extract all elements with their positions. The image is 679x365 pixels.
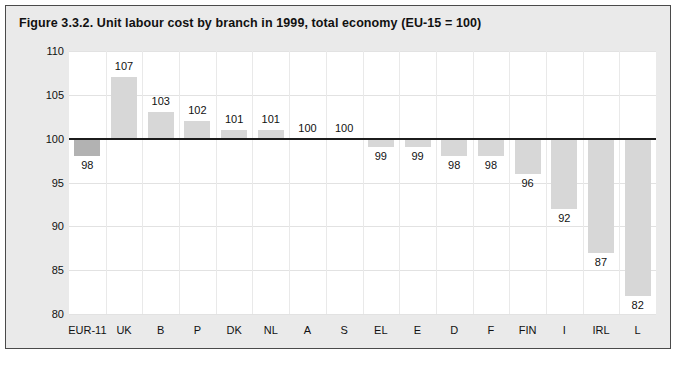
- x-tick-label-uk: UK: [116, 325, 131, 336]
- bar-value-label: 98: [81, 160, 93, 171]
- bar-value-label: 99: [375, 151, 387, 162]
- bar-value-label: 102: [188, 105, 206, 116]
- bar-value-label: 82: [632, 300, 644, 311]
- x-tick-label-el: EL: [374, 325, 387, 336]
- bar-value-label: 92: [558, 213, 570, 224]
- bar-column: 101: [216, 51, 253, 314]
- bar-value-label: 103: [152, 96, 170, 107]
- bar: [551, 139, 577, 209]
- figure-panel: Figure 3.3.2. Unit labour cost by branch…: [5, 5, 671, 349]
- y-tick-label: 95: [20, 177, 64, 188]
- x-tick-label-b: B: [157, 325, 164, 336]
- bar: [74, 139, 100, 157]
- bar-column: 98: [69, 51, 106, 314]
- gridline-y-80: [69, 314, 656, 315]
- bar: [478, 139, 504, 157]
- bar: [588, 139, 614, 253]
- y-tick-label: 90: [20, 221, 64, 232]
- bar: [368, 139, 394, 148]
- y-tick-label: 110: [20, 46, 64, 57]
- x-tick-label-a: A: [304, 325, 311, 336]
- x-tick-label-i: I: [563, 325, 566, 336]
- bar-value-label: 101: [262, 114, 280, 125]
- page-title: Figure 3.3.2. Unit labour cost by branch…: [19, 16, 481, 30]
- bar-column: 82: [619, 51, 656, 314]
- x-tick-label-nl: NL: [264, 325, 278, 336]
- bar-value-label: 96: [521, 178, 533, 189]
- bar: [441, 139, 467, 157]
- y-tick-label: 80: [20, 309, 64, 320]
- bar-column: 92: [546, 51, 583, 314]
- bar-column: 101: [252, 51, 289, 314]
- x-tick-label-s: S: [340, 325, 347, 336]
- x-tick-label-eur-11: EUR-11: [68, 325, 106, 336]
- bar-column: 87: [583, 51, 620, 314]
- bar-value-label: 107: [115, 61, 133, 72]
- bar-value-label: 98: [485, 160, 497, 171]
- bar-column: 100: [289, 51, 326, 314]
- bar-column: 98: [436, 51, 473, 314]
- x-tick-label-l: L: [635, 325, 641, 336]
- plot-area: 981071031021011011001009999989896928782: [69, 51, 656, 314]
- bar: [405, 139, 431, 148]
- bar-column: 103: [142, 51, 179, 314]
- bar: [184, 121, 210, 139]
- x-tick-label-f: F: [488, 325, 495, 336]
- bar-value-label: 98: [448, 160, 460, 171]
- bar-value-label: 87: [595, 257, 607, 268]
- bar-column: 98: [473, 51, 510, 314]
- bar: [515, 139, 541, 174]
- bar-value-label: 100: [298, 123, 316, 134]
- x-tick-label-e: E: [414, 325, 421, 336]
- y-tick-label: 100: [20, 133, 64, 144]
- bar: [148, 112, 174, 138]
- bar-column: 100: [326, 51, 363, 314]
- x-tick-label-p: P: [194, 325, 201, 336]
- x-tick-label-fin: FIN: [519, 325, 537, 336]
- bar-column: 99: [399, 51, 436, 314]
- bar-column: 107: [106, 51, 143, 314]
- y-tick-label: 85: [20, 265, 64, 276]
- baseline-eu15: [69, 138, 656, 140]
- bar-value-label: 100: [335, 123, 353, 134]
- bar-value-label: 99: [411, 151, 423, 162]
- bar-column: 99: [363, 51, 400, 314]
- y-tick-label: 105: [20, 89, 64, 100]
- bar-column: 102: [179, 51, 216, 314]
- x-tick-label-dk: DK: [226, 325, 241, 336]
- bar-value-label: 101: [225, 114, 243, 125]
- bar-column: 96: [509, 51, 546, 314]
- x-axis: EUR-11UKBPDKNLASELEDFFINIIRLL: [69, 319, 656, 343]
- bar: [111, 77, 137, 138]
- bar: [625, 139, 651, 297]
- x-tick-label-d: D: [450, 325, 458, 336]
- x-tick-label-irl: IRL: [592, 325, 609, 336]
- y-axis: 80859095100105110: [14, 51, 64, 314]
